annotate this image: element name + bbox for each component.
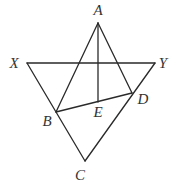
point-label-x: X [8,55,19,71]
point-label-c: C [75,167,86,183]
segments-group [27,23,155,161]
point-label-d: D [137,91,149,107]
segment-ab [56,23,98,112]
geometry-diagram: A X Y B D E C [0,0,175,191]
segment-ad [98,23,132,93]
point-label-e: E [92,104,102,120]
point-label-y: Y [159,55,169,71]
point-label-b: B [42,113,51,129]
point-label-a: A [92,2,103,18]
